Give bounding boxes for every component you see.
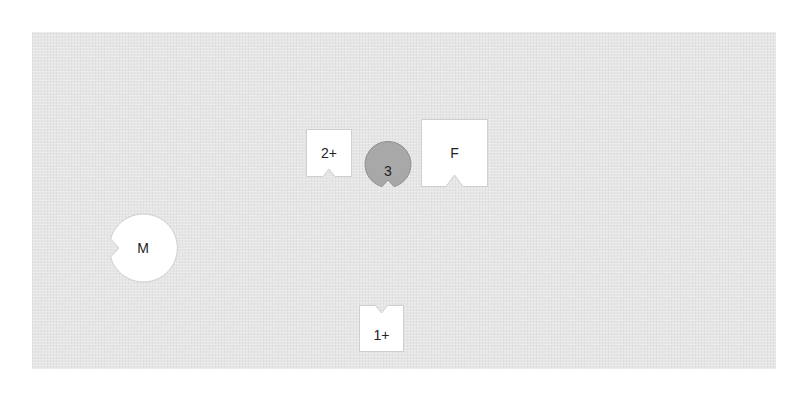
piece-three[interactable]: 3 [365,142,411,188]
piece-two-plus[interactable]: 2+ [306,129,352,177]
piece-one-plus[interactable]: 1+ [359,305,404,352]
piece-f[interactable]: F [421,119,488,187]
piece-label: 1+ [359,305,404,358]
piece-label: 3 [365,142,411,194]
piece-m[interactable]: M [109,214,177,282]
piece-label: F [421,119,488,195]
piece-label: 2+ [306,129,352,181]
piece-label: M [109,214,177,282]
